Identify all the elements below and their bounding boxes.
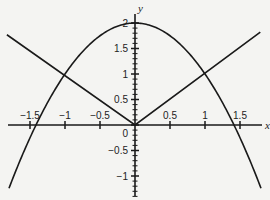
function-plot: −1.5−1−0.50.511.5−1−0.500.511.52 x y	[0, 0, 270, 200]
absolute-value-lines	[7, 32, 260, 125]
y-tick-label: −1	[117, 171, 129, 182]
y-tick-label: 1.5	[114, 43, 128, 54]
x-tick-label: −0.5	[90, 110, 110, 121]
x-tick-label: 0.5	[163, 110, 177, 121]
y-axis-label: y	[137, 2, 143, 14]
y-tick-label: 0.5	[114, 94, 128, 105]
x-tick-label: 1.5	[233, 110, 247, 121]
y-tick-label: 0	[122, 128, 128, 139]
y-tick-label: −0.5	[108, 145, 128, 156]
y-tick-label: 1	[122, 69, 128, 80]
x-axis-label: x	[264, 119, 270, 131]
x-tick-label: 1	[202, 110, 208, 121]
x-tick-label: −1.5	[20, 110, 40, 121]
x-tick-label: −1	[59, 110, 71, 121]
